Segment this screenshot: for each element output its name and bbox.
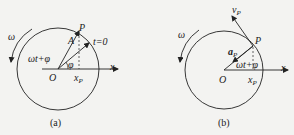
point-label-a: P [78,22,85,33]
phi-label-a: φ [68,59,74,70]
omega-label-a: ω [8,31,15,42]
t0-label-a: t=0 [93,36,108,47]
caption-b: (b) [218,117,230,129]
figure-b: ω x vP P aP ωt+φ O xP (b) [178,4,288,129]
origin-label-a: O [49,72,56,83]
omega-label-b: ω [178,29,185,40]
xp-label-b: xP [247,74,257,87]
xp-label-a: xP [73,72,83,85]
figure-a: ω x P A t=0 ωt+φ φ O xP (a) [8,22,118,129]
velocity-vector-b [232,16,253,46]
diagram-canvas: ω x P A t=0 ωt+φ φ O xP (a) ω x [0,0,294,135]
phase-label-a: ωt+φ [28,53,51,64]
origin-label-b: O [219,74,226,85]
point-label-b: P [254,35,261,46]
amplitude-label-a: A [67,35,75,46]
velocity-label-b: vP [232,4,241,17]
acceleration-label-b: aP [228,46,238,59]
phase-label-b: ωt+φ [236,59,259,70]
x-axis-label-b: x [280,62,286,73]
x-axis-label-a: x [109,61,115,72]
caption-a: (a) [50,117,61,129]
